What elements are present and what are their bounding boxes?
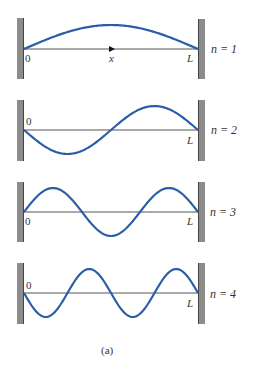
right-wall <box>198 263 205 324</box>
x-variable-label: x <box>109 53 114 64</box>
mode-label-n1: n = 1 <box>211 43 237 55</box>
left-wall <box>17 263 24 324</box>
mode-label-n2: n = 2 <box>211 124 237 136</box>
left-wall <box>17 100 24 161</box>
panel-n1 <box>17 18 205 79</box>
figure-caption: (a) <box>101 345 113 356</box>
origin-label: 0 <box>25 216 31 227</box>
length-label: L <box>187 135 193 146</box>
left-wall <box>17 182 24 242</box>
right-wall <box>198 182 205 242</box>
origin-label: 0 <box>26 280 32 291</box>
right-wall <box>198 100 205 161</box>
panel-n2 <box>17 100 205 161</box>
right-wall <box>198 19 205 79</box>
panel-n3 <box>17 182 205 242</box>
length-label: L <box>187 216 193 227</box>
mode-label-n3: n = 3 <box>210 206 236 218</box>
wave-n1 <box>24 25 198 49</box>
mode-label-n4: n = 4 <box>210 288 236 300</box>
left-wall <box>17 18 24 79</box>
length-label: L <box>187 298 193 309</box>
panel-n4 <box>17 263 205 324</box>
length-label: L <box>187 53 193 64</box>
origin-label: 0 <box>26 116 32 127</box>
origin-label: 0 <box>25 53 31 64</box>
